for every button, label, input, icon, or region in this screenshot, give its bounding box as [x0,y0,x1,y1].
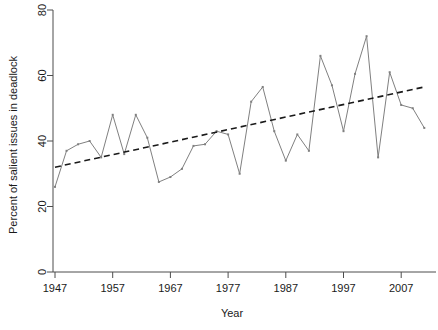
y-tick-label-40: 40 [36,135,48,147]
data-point-marker [343,130,345,132]
data-point-marker [354,73,356,75]
y-axis-title: Percent of salient issues in deadlock [7,56,19,234]
data-point-marker [169,176,171,178]
data-point-marker [192,145,194,147]
data-point-marker [239,173,241,175]
data-point-marker [250,101,252,103]
data-point-marker [389,71,391,73]
data-point-marker [285,160,287,162]
data-point-marker [331,84,333,86]
y-tick-label-20: 20 [36,200,48,212]
data-point-marker [366,35,368,37]
x-tick-label-1987: 1987 [274,282,298,294]
x-tick-label-2007: 2007 [389,282,413,294]
data-point-marker [273,130,275,132]
data-point-marker [319,55,321,57]
x-tick-label-1967: 1967 [158,282,182,294]
line-chart-plot: 80 60 40 20 0 Percent of salient issues … [0,0,438,330]
chart-figure: 80 60 40 20 0 Percent of salient issues … [0,0,438,330]
x-axis-title: Year [221,307,244,319]
data-point-marker [262,86,264,88]
data-point-marker [308,150,310,152]
data-point-marker [146,137,148,139]
data-point-marker [66,150,68,152]
data-point-marker [112,114,114,116]
data-point-marker [123,153,125,155]
data-point-marker [158,181,160,183]
data-point-marker [204,143,206,145]
x-tick-label-1947: 1947 [43,282,67,294]
x-tick-label-1997: 1997 [331,282,355,294]
data-point-marker [100,156,102,158]
data-point-marker [400,104,402,106]
x-tick-label-1977: 1977 [216,282,240,294]
x-tick-label-1957: 1957 [100,282,124,294]
data-point-marker [423,127,425,129]
data-point-marker [77,143,79,145]
y-tick-label-80: 80 [36,4,48,16]
data-point-marker [412,107,414,109]
data-point-marker [227,133,229,135]
y-tick-label-60: 60 [36,69,48,81]
data-point-marker [54,186,56,188]
data-point-marker [181,168,183,170]
y-tick-label-0: 0 [36,269,48,275]
data-point-marker [296,133,298,135]
data-point-marker [135,114,137,116]
data-point-marker [89,140,91,142]
data-point-marker [377,156,379,158]
